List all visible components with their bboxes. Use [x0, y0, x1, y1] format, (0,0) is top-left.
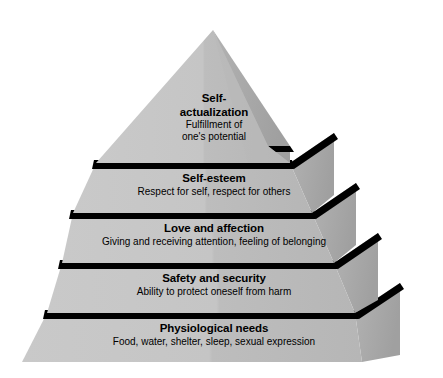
tier-desc-self-esteem: Respect for self, respect for others [96, 186, 332, 197]
tier-label-love-and-affection: Love and affection Giving and receiving … [73, 222, 355, 247]
tier-title-love-and-affection: Love and affection [73, 222, 355, 235]
tier-title-safety-and-security: Safety and security [62, 272, 366, 285]
tier-label-self-esteem: Self-esteem Respect for self, respect fo… [96, 172, 332, 197]
tier-label-physiological-needs: Physiological needs Food, water, shelter… [47, 322, 381, 347]
tier-desc-line1-self-actualization: Fulfillment of [186, 119, 243, 130]
maslow-hierarchy-diagram: Self-actualization Fulfillment ofone's p… [0, 0, 443, 378]
tier-label-safety-and-security: Safety and security Ability to protect o… [62, 272, 366, 297]
tier-title-self-esteem: Self-esteem [96, 172, 332, 185]
tier-desc-love-and-affection: Giving and receiving attention, feeling … [73, 236, 355, 247]
tier-desc-physiological-needs: Food, water, shelter, sleep, sexual expr… [47, 336, 381, 347]
tier-title-line2-self-actualization: actualization [180, 106, 248, 118]
tier-desc-line2-self-actualization: one's potential [182, 131, 246, 142]
tier-title-line1-self-actualization: Self- [202, 92, 226, 104]
tier-desc-safety-and-security: Ability to protect oneself from harm [62, 286, 366, 297]
tier-title-physiological-needs: Physiological needs [47, 322, 381, 335]
tier-label-self-actualization: Self-actualization Fulfillment ofone's p… [139, 92, 289, 143]
tier-title-self-actualization: Self-actualization [139, 92, 289, 119]
tier-desc-self-actualization: Fulfillment ofone's potential [139, 119, 289, 143]
